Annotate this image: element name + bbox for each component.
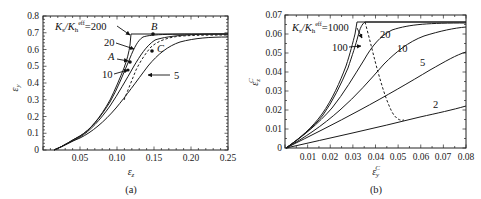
curve-100 xyxy=(286,22,466,148)
svg-text:0.01: 0.01 xyxy=(265,124,282,134)
svg-text:0.6: 0.6 xyxy=(27,45,39,55)
curve-5 xyxy=(54,37,228,150)
panel-a: 0 0.1 0.2 0.3 0.4 0.5 0.6 0.7 0.8 0.05 0… xyxy=(9,11,237,196)
svg-text:0.02: 0.02 xyxy=(322,152,339,162)
svg-text:0.3: 0.3 xyxy=(27,95,39,105)
point-B xyxy=(151,32,155,36)
svg-text:0.25: 0.25 xyxy=(220,153,237,163)
label-5-a: 5 xyxy=(174,70,179,81)
x-axis-title-a: εz xyxy=(128,166,135,179)
svg-text:0.15: 0.15 xyxy=(146,153,163,163)
svg-text:0.2: 0.2 xyxy=(27,112,39,122)
svg-text:0.07: 0.07 xyxy=(435,152,452,162)
caption-b: (b) xyxy=(370,184,383,196)
svg-text:0.02: 0.02 xyxy=(265,105,282,115)
svg-text:0.05: 0.05 xyxy=(265,48,282,58)
svg-text:0.01: 0.01 xyxy=(300,152,317,162)
svg-text:0.04: 0.04 xyxy=(265,67,282,77)
figure: 0 0.1 0.2 0.3 0.4 0.5 0.6 0.7 0.8 0.05 0… xyxy=(0,0,481,199)
svg-text:0: 0 xyxy=(34,145,39,155)
curves-b xyxy=(286,22,466,148)
svg-text:0.08: 0.08 xyxy=(458,152,475,162)
y-tick-labels-a: 0 0.1 0.2 0.3 0.4 0.5 0.6 0.7 0.8 xyxy=(27,11,39,155)
label-A: A xyxy=(107,51,115,62)
label-10-b: 10 xyxy=(397,43,408,54)
svg-text:0.5: 0.5 xyxy=(27,61,39,71)
curve-10-b xyxy=(286,27,466,148)
label-C: C xyxy=(157,43,165,54)
svg-text:0.04: 0.04 xyxy=(368,152,385,162)
svg-text:0.20: 0.20 xyxy=(183,153,200,163)
svg-text:0.10: 0.10 xyxy=(109,153,126,163)
label-100-b: 100 xyxy=(332,42,348,53)
point-A xyxy=(128,60,132,64)
label-10-a: 10 xyxy=(102,69,113,80)
svg-text:0: 0 xyxy=(277,143,282,153)
caption-a: (a) xyxy=(125,184,137,196)
curves-a xyxy=(54,34,228,150)
arrow-100 xyxy=(349,46,361,47)
y-axis-title-b: εzC xyxy=(247,78,262,86)
ratio-label-a: Ks/Kheff=200 xyxy=(54,20,106,34)
label-2-b: 2 xyxy=(433,99,438,110)
ratio-label-b: Ks/Kheff=1000 xyxy=(291,21,349,35)
y-axis-title-a: εy xyxy=(9,84,22,92)
curve-20-b xyxy=(286,23,466,148)
curve-locus-a xyxy=(124,35,228,100)
svg-text:0.03: 0.03 xyxy=(345,152,362,162)
curve-200 xyxy=(54,34,228,150)
panel-b: 0 0.01 0.02 0.03 0.04 0.05 0.06 0.07 0.0… xyxy=(247,10,475,196)
label-20-b: 20 xyxy=(380,29,391,40)
arrow-20-a xyxy=(116,43,134,49)
svg-text:0.4: 0.4 xyxy=(27,78,39,88)
svg-text:0.8: 0.8 xyxy=(27,11,39,21)
label-20-a: 20 xyxy=(104,37,115,48)
svg-text:0.05: 0.05 xyxy=(390,152,407,162)
label-5-b: 5 xyxy=(420,57,425,68)
x-tick-labels-b: 0.01 0.02 0.03 0.04 0.05 0.06 0.07 0.08 xyxy=(300,152,475,162)
x-tick-labels-a: 0.05 0.10 0.15 0.20 0.25 xyxy=(72,153,237,163)
svg-text:0.1: 0.1 xyxy=(27,128,39,138)
arrow-200 xyxy=(117,26,130,35)
svg-text:0.06: 0.06 xyxy=(265,29,282,39)
x-axis-title-b: εyC xyxy=(372,164,380,179)
point-C xyxy=(150,49,154,53)
svg-text:0.7: 0.7 xyxy=(27,28,39,38)
svg-text:0.07: 0.07 xyxy=(265,10,282,20)
svg-text:0.05: 0.05 xyxy=(72,153,89,163)
y-tick-labels-b: 0 0.01 0.02 0.03 0.04 0.05 0.06 0.07 xyxy=(265,10,282,153)
svg-text:0.06: 0.06 xyxy=(413,152,430,162)
curve-20 xyxy=(54,34,228,150)
curve-10 xyxy=(54,34,228,150)
curve-1000 xyxy=(286,22,466,148)
svg-text:0.03: 0.03 xyxy=(265,86,282,96)
label-B: B xyxy=(151,21,158,32)
arrow-10-a xyxy=(114,70,128,74)
